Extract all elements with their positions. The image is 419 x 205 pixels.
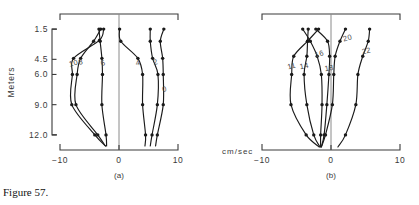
data-point-a-10-0 [102, 27, 105, 30]
data-point-a-8-3 [75, 73, 78, 76]
data-point-b-22-4 [354, 103, 357, 106]
data-point-a-8-5 [96, 133, 99, 136]
data-point-a-0-1 [159, 40, 162, 43]
data-point-b-20-4 [331, 103, 334, 106]
data-point-a-6-0 [97, 27, 100, 30]
x-tick-label-a-0: −10 [52, 155, 68, 165]
data-point-b-11-3 [290, 73, 293, 76]
data-point-b-16-4 [320, 103, 323, 106]
curve-label-b-14: 14 [299, 61, 310, 72]
data-point-b-14-3 [302, 73, 305, 76]
x-tick-label-b-1: 0 [328, 155, 333, 165]
figure-canvas: −100101086420(a) −10010111416182022(b) 1… [0, 0, 419, 205]
data-point-b-16-1 [309, 40, 312, 43]
y-tick-label-2: 6.0 [34, 69, 48, 79]
data-point-b-16-0 [301, 27, 304, 30]
x-axis-unit-label: cm/sec [222, 147, 253, 156]
data-point-a-6-3 [101, 73, 104, 76]
y-tick-label-0: 1.5 [34, 24, 48, 34]
data-point-a-4-5 [144, 133, 147, 136]
data-point-b-14-4 [305, 103, 308, 106]
data-point-b-22-3 [356, 73, 359, 76]
data-point-b-20-0 [344, 27, 347, 30]
x-tick-label-b-0: −10 [254, 155, 270, 165]
x-tick-label-a-1: 0 [116, 155, 121, 165]
x-tick-label-a-2: 10 [173, 155, 184, 165]
data-point-a-0-3 [162, 73, 165, 76]
data-point-a-10-4 [70, 103, 73, 106]
data-point-b-22-5 [344, 133, 347, 136]
data-point-b-22-0 [368, 27, 371, 30]
data-point-a-4-3 [141, 73, 144, 76]
data-point-a-0-0 [162, 27, 165, 30]
data-point-b-18-3 [327, 73, 330, 76]
data-point-a-4-4 [141, 103, 144, 106]
data-point-a-6-1 [98, 40, 101, 43]
data-point-a-0-2 [161, 57, 164, 60]
data-point-a-8-1 [92, 40, 95, 43]
y-tick-label-4: 12.0 [29, 130, 48, 140]
curve-label-b-18: 18 [324, 63, 335, 74]
curve-label-b-22: 22 [361, 45, 372, 56]
data-point-a-2-4 [156, 103, 159, 106]
data-point-b-20-5 [324, 133, 327, 136]
data-point-a-0-4 [162, 103, 165, 106]
x-tick-label-b-2: 10 [395, 155, 406, 165]
y-tick-label-3: 9.0 [34, 100, 48, 110]
data-point-b-18-1 [326, 40, 329, 43]
data-point-b-14-2 [305, 55, 308, 58]
data-point-b-11-4 [289, 103, 292, 106]
y-tick-label-1: 4.5 [34, 54, 48, 64]
data-point-b-22-1 [367, 40, 370, 43]
data-point-a-4-0 [118, 27, 121, 30]
data-point-b-16-5 [319, 133, 322, 136]
figure-57: −100101086420(a) −10010111416182022(b) 1… [0, 0, 419, 205]
data-point-a-6-4 [100, 103, 103, 106]
data-point-a-6-5 [104, 133, 107, 136]
data-point-a-10-3 [71, 73, 74, 76]
data-point-a-10-5 [93, 133, 96, 136]
data-point-b-18-2 [328, 55, 331, 58]
data-point-b-18-4 [325, 103, 328, 106]
data-point-a-2-0 [149, 27, 152, 30]
data-point-b-18-0 [314, 27, 317, 30]
data-point-a-2-3 [156, 73, 159, 76]
data-point-a-0-5 [156, 133, 159, 136]
data-point-a-8-4 [74, 103, 77, 106]
data-point-b-20-1 [338, 40, 341, 43]
data-point-a-2-1 [149, 40, 152, 43]
y-axis-title: Meters [6, 67, 16, 98]
panel-label-a: (a) [114, 171, 124, 180]
data-point-a-4-1 [119, 40, 122, 43]
data-point-b-20-3 [332, 73, 335, 76]
data-point-b-14-5 [312, 133, 315, 136]
data-point-b-20-2 [333, 55, 336, 58]
figure-caption: Figure 57. [3, 186, 48, 198]
data-point-b-11-2 [292, 55, 295, 58]
panel-label-b: (b) [326, 171, 336, 180]
data-point-b-14-0 [307, 27, 310, 30]
data-point-a-2-5 [150, 133, 153, 136]
data-point-b-16-3 [320, 73, 323, 76]
data-point-b-11-5 [304, 133, 307, 136]
